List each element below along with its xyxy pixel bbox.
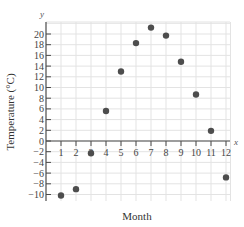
y-tick-label: 6 [39, 103, 44, 114]
x-tick-label: 6 [134, 147, 139, 158]
y-axis-title: Temperature (°C) [4, 73, 17, 151]
y-tick-label: 18 [34, 39, 44, 50]
data-point [88, 150, 94, 156]
data-point [58, 192, 64, 198]
y-tick-label: 0 [39, 136, 44, 147]
y-tick-label: −4 [33, 157, 44, 168]
x-axis-variable-label: x [233, 137, 238, 147]
y-tick-label: −10 [28, 189, 44, 200]
data-point [148, 24, 154, 30]
x-tick-label: 4 [104, 147, 109, 158]
x-tick-label: 10 [191, 147, 201, 158]
y-tick-label: −8 [33, 178, 44, 189]
data-point [193, 91, 199, 97]
y-tick-label: −6 [33, 168, 44, 179]
y-tick-label: 20 [34, 29, 44, 40]
data-point [118, 68, 124, 74]
y-tick-label: 16 [34, 50, 44, 61]
data-point [103, 108, 109, 114]
y-axis-variable-label: y [39, 9, 44, 19]
x-tick-label: 11 [206, 147, 216, 158]
y-tick-label: 10 [34, 82, 44, 93]
y-tick-label: 14 [34, 61, 44, 72]
x-tick-label: 8 [164, 147, 169, 158]
x-axis-ticks: 123456789101112 [59, 141, 232, 158]
x-axis-title: Month [122, 210, 152, 222]
scatter-chart: −10−8−6−4−202468101214161820 12345678910… [0, 0, 244, 227]
y-tick-label: 8 [39, 93, 44, 104]
x-tick-label: 9 [179, 147, 184, 158]
y-tick-label: −2 [33, 146, 44, 157]
x-tick-label: 2 [74, 147, 79, 158]
data-point [223, 174, 229, 180]
x-tick-label: 5 [119, 147, 124, 158]
data-point [163, 32, 169, 38]
y-tick-label: 4 [39, 114, 44, 125]
data-point [73, 186, 79, 192]
axes [46, 22, 230, 201]
x-tick-label: 7 [149, 147, 154, 158]
grid-lines [46, 22, 231, 201]
data-point [178, 59, 184, 65]
x-tick-label: 12 [221, 147, 231, 158]
y-axis-ticks: −10−8−6−4−202468101214161820 [28, 29, 51, 201]
y-tick-label: 2 [39, 125, 44, 136]
data-point [133, 40, 139, 46]
x-tick-label: 1 [59, 147, 64, 158]
y-tick-label: 12 [34, 71, 44, 82]
data-point [208, 128, 214, 134]
